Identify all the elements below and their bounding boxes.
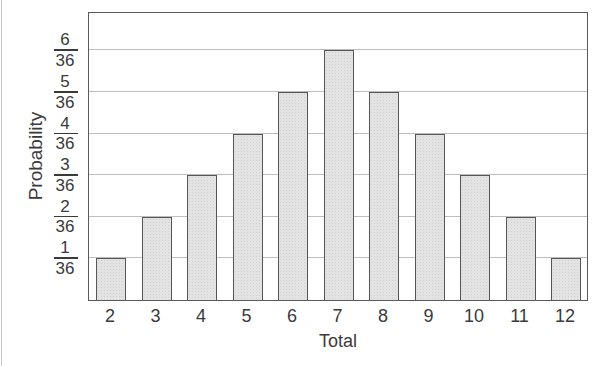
y-tick-denominator: 36 (48, 260, 82, 277)
x-tick-label: 8 (363, 306, 403, 327)
plot-area (88, 12, 588, 301)
y-tick-label: 636 (48, 31, 82, 69)
y-tick-label: 336 (48, 156, 82, 194)
bar-6 (278, 92, 308, 300)
y-tick-denominator: 36 (48, 218, 82, 235)
x-tick-label: 7 (318, 306, 358, 327)
bar-4 (187, 175, 217, 300)
y-tick-denominator: 36 (48, 94, 82, 111)
x-tick-label: 10 (454, 306, 494, 327)
bar-10 (460, 175, 490, 300)
bar-2 (96, 258, 126, 300)
y-tick-denominator: 36 (48, 52, 82, 69)
x-tick-label: 9 (409, 306, 449, 327)
y-tick-numerator: 3 (48, 156, 82, 173)
x-tick-label: 6 (272, 306, 312, 327)
x-tick-label: 5 (227, 306, 267, 327)
x-tick-label: 3 (136, 306, 176, 327)
x-tick-label: 11 (500, 306, 540, 327)
y-tick-numerator: 1 (48, 239, 82, 256)
y-tick-label: 436 (48, 115, 82, 153)
y-tick-denominator: 36 (48, 135, 82, 152)
bar-7 (324, 50, 354, 300)
y-tick-numerator: 2 (48, 198, 82, 215)
x-tick-label: 2 (90, 306, 130, 327)
y-tick-numerator: 6 (48, 31, 82, 48)
bar-11 (506, 217, 536, 300)
y-tick-label: 136 (48, 239, 82, 277)
bar-3 (142, 217, 172, 300)
y-tick-label: 236 (48, 198, 82, 236)
y-tick-numerator: 4 (48, 115, 82, 132)
y-tick-label: 536 (48, 73, 82, 111)
x-axis-label: Total (0, 331, 598, 352)
x-tick-label: 4 (181, 306, 221, 327)
bar-9 (415, 134, 445, 300)
bar-12 (551, 258, 581, 300)
y-tick-denominator: 36 (48, 177, 82, 194)
page-edge (1, 0, 2, 366)
x-tick-label: 12 (545, 306, 585, 327)
bar-5 (233, 134, 263, 300)
bar-8 (369, 92, 399, 300)
y-axis-label: Probability (25, 112, 47, 201)
y-tick-numerator: 5 (48, 73, 82, 90)
